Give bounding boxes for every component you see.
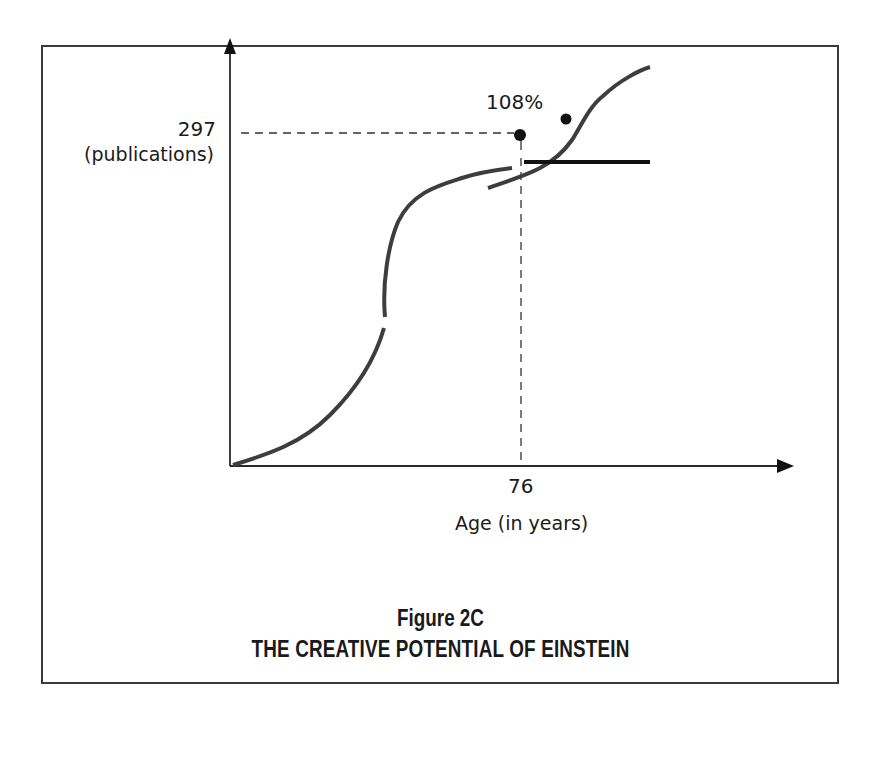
y-marker-value: 297	[178, 118, 216, 140]
percent-annotation: 108%	[486, 90, 543, 114]
marker-dot-108-percent	[514, 129, 526, 141]
actual-curve-lower	[233, 328, 384, 465]
actual-curve-upper	[384, 168, 512, 317]
projected-curve	[488, 67, 650, 188]
y-axis-unit-label: (publications)	[84, 142, 214, 166]
figure-number: Figure 2C	[79, 605, 801, 632]
y-axis	[224, 38, 236, 466]
y-axis-arrow-icon	[224, 38, 236, 54]
x-axis	[230, 459, 794, 473]
x-axis-arrow-icon	[777, 459, 794, 473]
x-axis-label: Age (in years)	[455, 512, 588, 534]
x-marker-value: 76	[508, 474, 533, 498]
marker-dot-projected	[561, 114, 572, 125]
figure-title: THE CREATIVE POTENTIAL OF EINSTEIN	[79, 636, 801, 663]
